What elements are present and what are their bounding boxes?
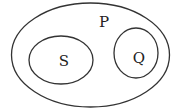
set-p-label: P: [99, 13, 109, 31]
set-s-label: S: [59, 52, 69, 70]
euler-diagram: P S Q: [0, 0, 177, 111]
set-q-label: Q: [133, 49, 145, 67]
set-p-ellipse: [12, 3, 170, 107]
